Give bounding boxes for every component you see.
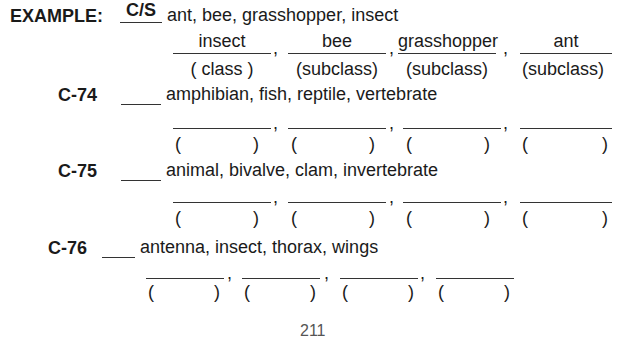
item-terms-c74: amphibian, fish, reptile, vertebrate [166,84,437,105]
comma: , [273,38,278,59]
class-blank[interactable]: () [522,208,608,229]
comma: , [503,113,508,134]
item-label-c74: C-74 [58,85,97,106]
class-blank[interactable]: () [291,134,375,155]
comma: , [273,113,278,134]
comma: , [503,187,508,208]
class-blank[interactable]: () [342,282,414,303]
answer-line[interactable] [288,106,386,129]
comma: , [389,113,394,134]
comma: , [389,187,394,208]
answer-blank-c75[interactable] [121,180,161,181]
example-answer-2: bee [288,31,386,54]
example-class-2: (subclass) [288,59,386,80]
class-blank[interactable]: () [291,208,375,229]
page-number: 211 [300,322,326,340]
answer-line[interactable] [520,106,612,129]
comma: , [227,263,232,284]
answer-line[interactable] [436,256,514,279]
comma: , [273,187,278,208]
answer-line[interactable] [520,180,612,203]
answer-line[interactable] [403,106,501,129]
item-terms-c75: animal, bivalve, clam, invertebrate [166,160,438,181]
class-blank[interactable]: () [175,208,259,229]
example-answer-3: grasshopper [398,31,496,54]
example-class-3: (subclass) [398,59,496,80]
answer-blank-c74[interactable] [121,104,161,105]
example-answer: C/S [120,0,162,23]
example-answer-4: ant [520,31,612,54]
answer-line[interactable] [146,256,224,279]
answer-line[interactable] [173,106,271,129]
example-terms: ant, bee, grasshopper, insect [167,5,398,26]
answer-blank-c76[interactable] [102,257,135,258]
class-blank[interactable]: () [244,282,316,303]
answer-line[interactable] [403,180,501,203]
class-blank[interactable]: () [438,282,510,303]
answer-line[interactable] [173,180,271,203]
item-terms-c76: antenna, insect, thorax, wings [140,237,378,258]
answer-line[interactable] [340,256,418,279]
comma: , [503,38,508,59]
class-blank[interactable]: () [406,134,490,155]
class-blank[interactable]: () [522,134,608,155]
class-blank[interactable]: () [148,282,220,303]
example-class-1: ( class ) [173,59,271,80]
example-answer-1: insect [173,31,271,54]
comma: , [389,38,394,59]
answer-line[interactable] [242,256,320,279]
comma: , [324,263,329,284]
item-label-c75: C-75 [58,161,97,182]
answer-line[interactable] [288,180,386,203]
example-label: EXAMPLE: [10,6,103,27]
item-label-c76: C-76 [48,238,87,259]
class-blank[interactable]: () [406,208,490,229]
class-blank[interactable]: () [175,134,259,155]
example-class-4: (subclass) [514,59,612,80]
comma: , [420,263,425,284]
